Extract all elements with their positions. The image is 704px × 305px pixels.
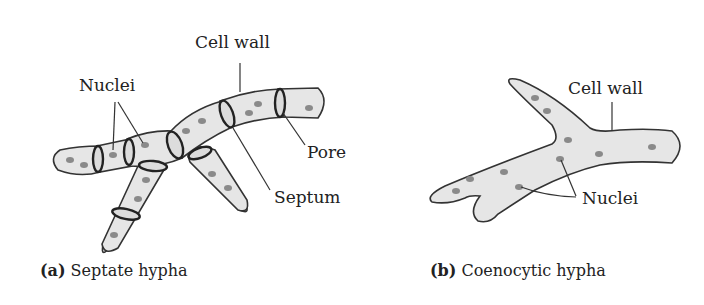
caption-a-letter: (a) <box>40 261 66 280</box>
caption-b-text: Coenocytic hypha <box>456 261 606 280</box>
label-nuclei-a: Nuclei <box>79 75 136 95</box>
label-cell-wall-b: Cell wall <box>568 78 643 98</box>
hypha-diagram: Cell wall Nuclei Pore Septum Cell wall N… <box>0 0 704 305</box>
label-nuclei-b: Nuclei <box>582 188 639 208</box>
label-pore: Pore <box>307 142 346 162</box>
label-cell-wall-a: Cell wall <box>195 32 270 52</box>
caption-b-letter: (b) <box>430 261 456 280</box>
label-septum: Septum <box>274 187 341 207</box>
coenocytic-hypha-illustration <box>430 79 680 222</box>
caption-a: (a) Septate hypha <box>40 261 188 280</box>
caption-b: (b) Coenocytic hypha <box>430 261 606 280</box>
caption-a-text: Septate hypha <box>66 261 189 280</box>
